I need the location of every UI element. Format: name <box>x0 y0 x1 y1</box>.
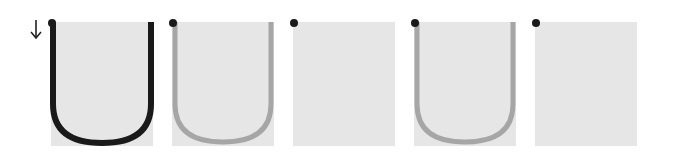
start-dot <box>169 19 177 27</box>
u-curve-light <box>414 22 516 146</box>
panel-4 <box>414 22 516 146</box>
down-arrow-icon <box>29 18 43 40</box>
panel-2 <box>172 22 274 146</box>
panel-3 <box>293 22 395 146</box>
u-curve-light <box>172 22 274 146</box>
start-dot <box>411 19 419 27</box>
start-dot <box>532 19 540 27</box>
start-dot <box>290 19 298 27</box>
u-curve-dark <box>51 22 153 146</box>
panel-1 <box>51 22 153 146</box>
panel-5 <box>535 22 637 146</box>
start-dot <box>48 19 56 27</box>
